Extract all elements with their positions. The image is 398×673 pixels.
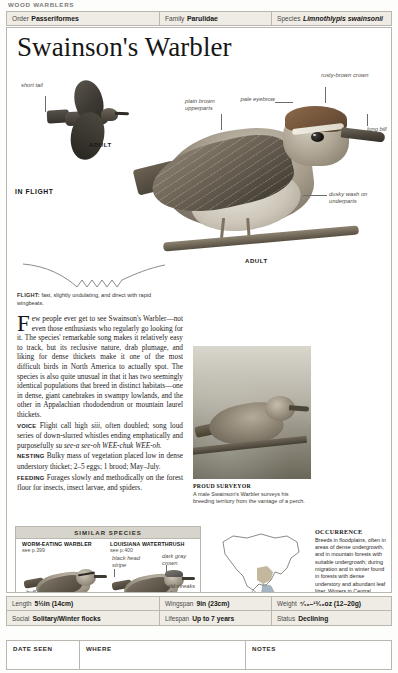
callout-black-eyebrow: black eyebrow <box>64 591 96 593</box>
flight-path-diagram <box>19 260 169 294</box>
taxonomy-species-value: Limnothlypis swainsonii <box>303 15 383 22</box>
range-map <box>213 528 309 593</box>
flight-bill <box>115 112 129 115</box>
stat-social-label: Social <box>12 615 29 622</box>
log-notes-header[interactable]: NOTES <box>245 641 391 669</box>
leader-dusky-wash <box>303 195 327 196</box>
similar-species-item-worm-eating-warbler: WORM-EATING WARBLER see p.399 <box>22 541 108 554</box>
similar-species-box: SIMILAR SPECIES WORM-EATING WARBLER see … <box>15 526 201 593</box>
similar-species-ref: see p.399 <box>22 547 108 554</box>
sim2-bill <box>182 577 195 580</box>
photo-caption-title: PROUD SURVEYOR <box>193 483 311 490</box>
stat-wingspan-label: Wingspan <box>165 600 193 607</box>
range-map-svg <box>213 528 309 593</box>
stats-row-lifehistory: Social Solitary/Winter flocks Lifespan U… <box>6 611 392 626</box>
stat-wingspan-value: 9in (23cm) <box>196 600 229 607</box>
running-head: WOOD WARBLERS <box>8 1 74 8</box>
feeding-label: FEEDING <box>17 475 45 481</box>
callout-short-tail: short tail <box>21 82 57 89</box>
occurrence-title: OCCURRENCE <box>315 528 389 535</box>
taxonomy-family-value: Parulidae <box>187 15 218 22</box>
bird-in-flight-illustration <box>45 80 131 158</box>
callout-dusky-wash: dusky wash on underparts <box>329 191 383 205</box>
stat-weight-value: ⁷⁄₁₆–¹³⁄₁₆oz (12–20g) <box>300 600 361 607</box>
callout-buff-underparts: buff underparts <box>26 589 60 593</box>
taxonomy-order-label: Order <box>12 15 29 22</box>
flight-description: FLIGHT: fast, slightly undulating, and d… <box>17 292 177 307</box>
callout-rusty-brown-crown: rusty-brown crown <box>321 72 369 79</box>
intro-text: ew people ever get to see Swainson's War… <box>17 314 183 419</box>
observation-log: DATE SEEN WHERE NOTES <box>6 640 392 670</box>
stat-wingspan: Wingspan 9in (23cm) <box>159 597 271 610</box>
stat-lifespan-label: Lifespan <box>165 615 189 622</box>
stats-row-measurements: Length 5½in (14cm) Wingspan 9in (23cm) W… <box>6 596 392 611</box>
label-in-flight: IN FLIGHT <box>15 188 54 195</box>
stat-status-label: Status <box>277 615 295 622</box>
stat-weight: Weight ⁷⁄₁₆–¹³⁄₁₆oz (12–20g) <box>271 597 391 610</box>
log-where-header[interactable]: WHERE <box>79 641 245 669</box>
leader-crown <box>325 87 326 103</box>
perch-branch <box>163 225 359 251</box>
occurrence-section: OCCURRENCE Breeds in floodplains, often … <box>315 528 389 593</box>
illustration-area: short tail ADULT IN FLIGHT plain brown u… <box>7 64 391 294</box>
page-title: Swainson's Warbler <box>17 32 232 62</box>
sim2-crown <box>165 570 183 577</box>
leader-short-tail <box>45 96 46 112</box>
callout-bold-streaks-below: bold streaks below <box>164 583 196 593</box>
nesting-section: NESTING Bulky mass of vegetation placed … <box>17 451 183 471</box>
log-date-seen-header[interactable]: DATE SEEN <box>7 641 79 669</box>
leader-eyebrow <box>275 102 293 103</box>
leader-crown-gray <box>166 565 167 573</box>
stat-length-value: 5½in (14cm) <box>35 600 74 607</box>
stat-status-value: Declining <box>298 615 328 622</box>
sim1-bill <box>94 575 107 578</box>
stat-social-value: Solitary/Winter flocks <box>32 615 100 622</box>
taxonomy-species: Species Limnothlypis swainsonii <box>271 12 391 25</box>
photo-caption-text: A male Swainson's Warbler surveys his br… <box>193 491 305 504</box>
callout-plain-brown-upperparts: plain brown upperparts <box>185 98 227 112</box>
field-guide-page: WOOD WARBLERS Order Passeriformes Family… <box>0 0 398 673</box>
flight-label: FLIGHT: <box>17 292 40 298</box>
perched-eye <box>311 132 324 142</box>
stat-length-label: Length <box>12 600 32 607</box>
drop-cap: F <box>17 314 32 333</box>
stat-length: Length 5½in (14cm) <box>7 597 159 610</box>
stat-lifespan-value: Up to 7 years <box>192 615 234 622</box>
voice-label: VOICE <box>17 423 36 429</box>
callout-dark-gray-crown: dark gray crown <box>162 553 196 567</box>
label-adult-flight: ADULT <box>89 142 112 148</box>
voice-italic-1: siii <box>91 421 100 430</box>
species-account-text: Few people ever get to see Swainson's Wa… <box>17 314 183 493</box>
label-adult-perched: ADULT <box>245 258 268 264</box>
voice-text-1: Flight call high <box>36 421 91 430</box>
taxonomy-species-label: Species <box>277 15 300 22</box>
taxonomy-order: Order Passeriformes <box>7 12 159 25</box>
stat-lifespan: Lifespan Up to 7 years <box>159 611 271 625</box>
taxonomy-bar: Order Passeriformes Family Parulidae Spe… <box>6 11 392 26</box>
leader-upperparts <box>221 114 222 130</box>
leader-bill <box>367 114 368 126</box>
similar-species-heading: SIMILAR SPECIES <box>16 527 200 539</box>
stat-status: Status Declining <box>271 611 391 625</box>
feeding-section: FEEDING Forages slowly and methodically … <box>17 473 183 493</box>
taxonomy-order-value: Passeriformes <box>31 15 79 22</box>
stat-social: Social Solitary/Winter flocks <box>7 611 159 625</box>
callout-pale-eyebrow: pale eyebrow <box>231 96 275 103</box>
species-photograph <box>193 346 311 479</box>
nesting-label: NESTING <box>17 453 45 459</box>
callout-long-bill: long bill <box>367 126 389 133</box>
taxonomy-family: Family Parulidae <box>159 12 271 25</box>
stat-weight-label: Weight <box>277 600 297 607</box>
voice-section: VOICE Flight call high siii, often doubl… <box>17 421 183 451</box>
leader-head-stripe <box>114 569 115 577</box>
intro-paragraph: Few people ever get to see Swainson's Wa… <box>17 314 183 420</box>
photo-caption: PROUD SURVEYOR A male Swainson's Warbler… <box>193 483 311 506</box>
taxonomy-family-label: Family <box>165 15 184 22</box>
species-plate: Swainson's Warbler short tail ADULT IN F… <box>6 27 392 593</box>
occurrence-text: Breeds in floodplains, often in areas of… <box>315 537 386 593</box>
voice-italic-2: su see-a see-oh WEE-chuk WEE-oh. <box>56 441 162 450</box>
callout-black-head-stripe: black head stripe <box>112 555 148 569</box>
